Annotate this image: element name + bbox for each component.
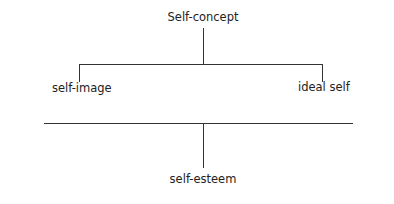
node-self-esteem: self-esteem bbox=[170, 172, 237, 186]
node-ideal-self: ideal self bbox=[298, 80, 350, 94]
connector-bottom-stem bbox=[203, 123, 204, 168]
connector-top-bar bbox=[79, 64, 323, 65]
connector-root-stem bbox=[203, 28, 204, 64]
connector-left-drop bbox=[79, 64, 80, 82]
node-self-image: self-image bbox=[52, 81, 112, 95]
node-self-concept: Self-concept bbox=[168, 10, 239, 24]
connector-bottom-bar bbox=[44, 123, 353, 124]
